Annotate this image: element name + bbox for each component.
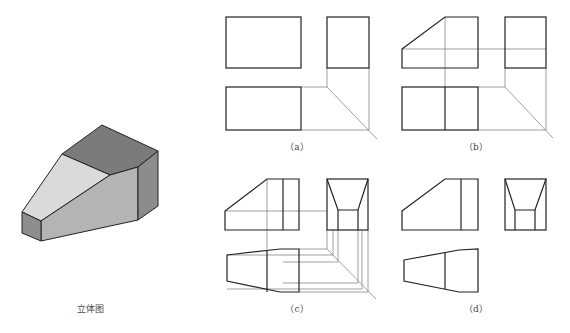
three-view-drawing bbox=[0, 0, 570, 333]
panel-b bbox=[402, 17, 553, 138]
panel-c bbox=[225, 179, 376, 299]
isometric-solid bbox=[22, 125, 158, 241]
panel-d bbox=[402, 179, 546, 292]
panel-d-caption: （d） bbox=[464, 302, 488, 315]
iso-caption: 立体图 bbox=[77, 302, 104, 315]
panel-c-caption: （c） bbox=[285, 302, 308, 315]
panel-b-caption: （b） bbox=[464, 140, 488, 153]
panel-a bbox=[226, 17, 377, 139]
panel-a-caption: （a） bbox=[285, 140, 308, 153]
